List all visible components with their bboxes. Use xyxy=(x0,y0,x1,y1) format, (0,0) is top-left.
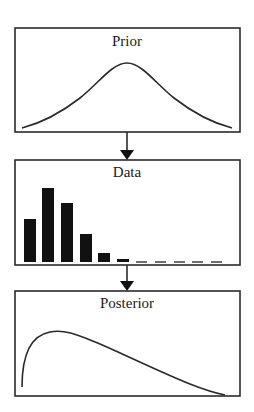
prior-title: Prior xyxy=(112,33,142,49)
arrow-data-to-posterior xyxy=(120,265,134,291)
bayesian-update-diagram: Prior Data xyxy=(0,0,254,412)
bar-4 xyxy=(80,234,92,262)
posterior-title: Posterior xyxy=(100,295,154,311)
bar-3 xyxy=(61,203,73,262)
posterior-panel: Posterior xyxy=(15,291,240,396)
data-title: Data xyxy=(113,164,142,180)
data-panel: Data xyxy=(15,160,240,265)
bar-2 xyxy=(42,188,54,262)
arrow-prior-to-data xyxy=(120,132,134,160)
bar-1 xyxy=(24,219,36,262)
bar-6 xyxy=(117,259,129,262)
bar-5 xyxy=(98,253,110,262)
prior-panel: Prior xyxy=(15,28,240,132)
